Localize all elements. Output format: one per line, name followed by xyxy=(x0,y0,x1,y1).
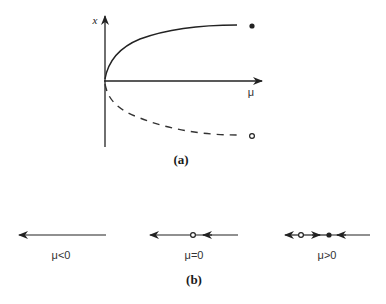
panel-a-caption: (a) xyxy=(173,152,188,168)
y-axis-label: x xyxy=(93,14,98,26)
panel-b-caption: (b) xyxy=(186,272,202,288)
phase-line-label-mu-zero: μ=0 xyxy=(185,249,204,261)
stable-point-icon xyxy=(249,23,254,28)
unstable-point-icon xyxy=(250,134,255,139)
unstable-fixed-point-icon xyxy=(299,233,304,238)
panel-a-axes xyxy=(104,16,262,147)
stable-branch-curve xyxy=(105,25,237,79)
x-axis-label: μ xyxy=(248,86,254,98)
phase-line-label-mu-negative: μ<0 xyxy=(52,249,71,261)
semistable-point-icon xyxy=(191,233,196,238)
stable-fixed-point-icon xyxy=(326,232,331,237)
phase-line-mu-zero xyxy=(150,233,238,238)
unstable-branch-curve xyxy=(105,84,237,135)
phase-line-label-mu-positive: μ>0 xyxy=(318,249,337,261)
phase-line-mu-positive xyxy=(285,232,370,237)
